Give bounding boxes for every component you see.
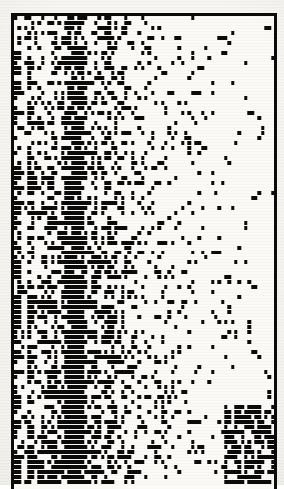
matrix-plot-area <box>14 16 274 485</box>
incidence-matrix-canvas <box>14 16 274 485</box>
